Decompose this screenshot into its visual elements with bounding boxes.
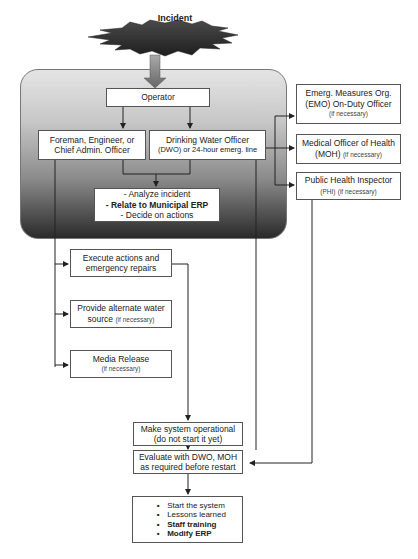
operator-label: Operator <box>141 92 175 103</box>
operator-node: Operator <box>106 88 210 107</box>
media-line1: Media Release <box>93 354 150 365</box>
emo-line2: (EMO) On-Duty Officer <box>305 99 391 110</box>
analyze-node: - Analyze incident - Relate to Municipal… <box>94 188 220 222</box>
execute-line1: Execute actions and <box>83 253 160 264</box>
media-release-node: Media Release (if necessary) <box>70 350 172 378</box>
emo-line1: Emerg. Measures Org. <box>306 88 392 99</box>
final-item: •Staff training <box>149 520 226 530</box>
media-note: (if necessary) <box>101 364 140 375</box>
phi-line2: (PHI) <box>320 188 335 195</box>
final-item: •Modify ERP <box>149 529 226 539</box>
incident-label: Incident <box>125 6 225 30</box>
final-actions-list: •Start the system •Lessons learned •Staf… <box>149 501 226 539</box>
operational-line1: Make system operational <box>141 424 236 435</box>
foreman-line1: Foreman, Engineer, or <box>50 135 135 146</box>
dwo-node: Drinking Water Officer (DWO) or 24-hour … <box>149 130 266 160</box>
evaluate-line2: as required before restart <box>140 462 235 473</box>
moh-node: Medical Officer of Health (MOH) (if nece… <box>296 134 401 164</box>
operational-node: Make system operational (do not start it… <box>133 422 243 446</box>
dwo-line2: (DWO) or 24-hour emerg. line <box>158 145 257 156</box>
emo-node: Emerg. Measures Org. (EMO) On-Duty Offic… <box>296 84 401 124</box>
operational-line2: (do not start it yet) <box>154 434 223 445</box>
final-actions-node: •Start the system •Lessons learned •Staf… <box>132 496 243 543</box>
foreman-node: Foreman, Engineer, or Chief Admin. Offic… <box>38 130 146 160</box>
evaluate-line1: Evaluate with DWO, MOH <box>139 452 237 463</box>
analyze-line2: - Relate to Municipal ERP <box>106 200 209 211</box>
moh-line1: Medical Officer of Health <box>302 138 395 149</box>
final-item: •Start the system <box>149 501 226 511</box>
moh-line2: (MOH) <box>315 149 341 159</box>
analyze-line1: - Analyze incident <box>124 189 191 200</box>
final-item: •Lessons learned <box>149 510 226 520</box>
alternate-water-node: Provide alternate water source (if neces… <box>70 300 172 328</box>
emo-note: (if necessary) <box>329 109 368 120</box>
phi-note: (if necessary) <box>338 188 377 195</box>
execute-node: Execute actions and emergency repairs <box>70 249 172 277</box>
alternate-line1: Provide alternate water <box>77 303 164 314</box>
moh-note: (if necessary) <box>343 151 382 158</box>
execute-line2: emergency repairs <box>86 263 156 274</box>
foreman-line2: Chief Admin. Officer <box>54 145 129 156</box>
evaluate-node: Evaluate with DWO, MOH as required befor… <box>133 450 243 474</box>
dwo-line1: Drinking Water Officer <box>166 135 249 146</box>
flowchart-canvas: Incident Operator Foreman, Engineer, or … <box>0 0 418 559</box>
phi-node: Public Health Inspector (PHI) (if necess… <box>296 172 401 200</box>
alternate-line2: source <box>88 314 114 324</box>
phi-line1: Public Health Inspector <box>305 175 392 186</box>
alternate-note: (if necessary) <box>115 316 154 323</box>
analyze-line3: - Decide on actions <box>121 210 194 221</box>
